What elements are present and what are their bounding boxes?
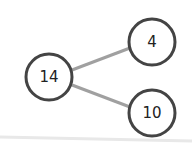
baseline-divider [0, 137, 192, 141]
number-bond-diagram: 14 4 10 [0, 0, 192, 153]
part-node-2: 10 [129, 90, 175, 136]
connector-whole-to-part-2 [72, 85, 130, 107]
part-2-value: 10 [142, 104, 161, 122]
whole-value: 14 [39, 68, 58, 86]
connector-whole-to-part-1 [72, 48, 130, 70]
whole-node: 14 [26, 54, 72, 100]
part-1-value: 4 [147, 33, 157, 51]
part-node-1: 4 [129, 19, 175, 65]
